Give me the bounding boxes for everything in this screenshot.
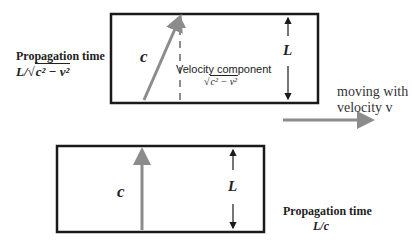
motion-label-line2: velocity v	[337, 100, 393, 116]
moving-height-label: L	[283, 42, 292, 59]
motion-label-line1: moving with	[337, 84, 408, 100]
moving-light-speed-label: c	[140, 47, 148, 67]
velocity-component-formula: √c² − v²	[204, 76, 238, 87]
rest-propagation-label: Propagation time	[283, 204, 372, 219]
rest-height-label: L	[228, 178, 237, 195]
diagonal-light-arrow-icon	[144, 22, 178, 100]
velocity-component-label: Velocity component	[176, 63, 271, 75]
light-clock-diagram: Propagation time L/√c² − v² c Velocity c…	[0, 0, 419, 242]
moving-propagation-label: Propagation time	[16, 49, 105, 64]
rest-propagation-formula: L/c	[313, 219, 329, 234]
rest-light-speed-label: c	[117, 182, 125, 202]
moving-propagation-formula: L/√c² − v²	[16, 64, 70, 80]
